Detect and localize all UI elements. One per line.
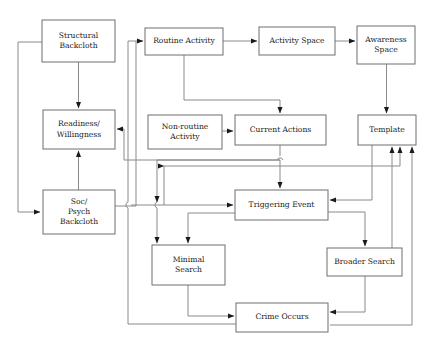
node-label: Readiness/ bbox=[58, 119, 100, 128]
node-readiness_willingness[interactable]: Readiness/Willingness bbox=[43, 110, 115, 149]
node-label: Psych bbox=[68, 207, 90, 216]
node-label: Soc/ bbox=[71, 197, 88, 206]
node-label: Template bbox=[369, 125, 405, 134]
diagram-canvas: StructuralBackclothReadiness/Willingness… bbox=[0, 0, 431, 349]
node-label: Non-routine bbox=[162, 122, 209, 131]
node-structural_backcloth[interactable]: StructuralBackcloth bbox=[42, 20, 115, 62]
node-template[interactable]: Template bbox=[358, 115, 416, 145]
edge-structural-to-socpsych bbox=[18, 42, 42, 212]
node-label: Current Actions bbox=[250, 125, 311, 134]
node-label: Broader Search bbox=[334, 257, 395, 266]
node-label: Space bbox=[374, 45, 398, 54]
edge-crimeoccurs-to-template bbox=[330, 147, 412, 325]
node-label: Awareness bbox=[364, 35, 407, 44]
edge-template-to-triggering bbox=[330, 145, 372, 200]
node-minimal_search[interactable]: MinimalSearch bbox=[152, 245, 225, 285]
node-label: Activity bbox=[169, 132, 200, 141]
node-label: Crime Occurs bbox=[255, 312, 308, 321]
node-label: Minimal bbox=[173, 255, 205, 264]
node-broader_search[interactable]: Broader Search bbox=[327, 248, 402, 276]
edge-crimeoccurs-to-routine-upper bbox=[128, 41, 136, 202]
node-label: Routine Activity bbox=[153, 36, 215, 45]
edge-minimalsearch-to-crimeoccurs bbox=[188, 285, 234, 316]
edge-triggering-to-template bbox=[164, 147, 400, 166]
node-current_actions[interactable]: Current Actions bbox=[235, 115, 326, 145]
node-label: Triggering Event bbox=[249, 200, 315, 209]
node-activity_space[interactable]: Activity Space bbox=[259, 27, 335, 55]
edge-broadersearch-to-crimeoccurs bbox=[330, 276, 365, 312]
node-label: Activity Space bbox=[268, 36, 325, 45]
node-routine_activity[interactable]: Routine Activity bbox=[145, 28, 223, 55]
node-crime_occurs[interactable]: Crime Occurs bbox=[236, 303, 328, 332]
node-layer: StructuralBackclothReadiness/Willingness… bbox=[42, 20, 416, 332]
node-awareness_space[interactable]: AwarenessSpace bbox=[357, 26, 415, 64]
node-label: Backcloth bbox=[59, 41, 97, 50]
edge-socpsych-to-routine bbox=[115, 41, 143, 206]
node-soc_psych_backcloth[interactable]: Soc/PsychBackcloth bbox=[43, 190, 115, 234]
line-hop-marker-bus-a bbox=[126, 202, 128, 208]
edge-triggering-to-broadersearch bbox=[328, 212, 365, 246]
node-label: Willingness bbox=[57, 130, 101, 139]
node-label: Backcloth bbox=[60, 217, 98, 226]
node-non_routine_activity[interactable]: Non-routineActivity bbox=[148, 115, 222, 149]
edge-triggering-to-minimalsearch bbox=[188, 213, 235, 243]
node-label: Structural bbox=[59, 31, 99, 40]
flowchart-svg: StructuralBackclothReadiness/Willingness… bbox=[0, 0, 431, 349]
node-triggering_event[interactable]: Triggering Event bbox=[235, 190, 328, 220]
edge-routine-to-currentactions bbox=[184, 55, 280, 113]
node-label: Search bbox=[175, 265, 202, 274]
